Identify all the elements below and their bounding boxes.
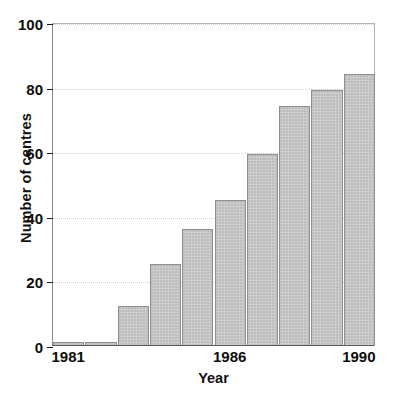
bars-group xyxy=(53,24,374,345)
bar xyxy=(85,342,116,345)
y-axis-title: Number of centres xyxy=(18,78,34,278)
y-tick-label: 60 xyxy=(26,145,43,162)
bar xyxy=(53,342,84,345)
plot-area: 020406080100 xyxy=(52,23,375,346)
y-tick-label: 40 xyxy=(26,209,43,226)
x-tick-label: 1990 xyxy=(342,348,375,365)
y-tick-label: 80 xyxy=(26,80,43,97)
bar xyxy=(150,264,181,345)
x-axis-title: Year xyxy=(52,370,375,386)
bar xyxy=(247,154,278,345)
bar xyxy=(279,106,310,345)
y-tick-label: 20 xyxy=(26,274,43,291)
x-tick-label: 1986 xyxy=(213,348,246,365)
x-tick-label: 1981 xyxy=(51,348,84,365)
bar xyxy=(182,229,213,345)
y-tick-label: 0 xyxy=(35,339,43,356)
bar xyxy=(311,90,342,345)
bar xyxy=(215,200,246,345)
x-axis-ticks: 198119861990 xyxy=(52,348,375,372)
bar xyxy=(118,306,149,345)
cut-off-caption xyxy=(46,389,346,396)
bar xyxy=(344,74,375,345)
bar-chart-figure: Number of centres 020406080100 198119861… xyxy=(0,0,393,396)
y-tick-label: 100 xyxy=(18,16,43,33)
